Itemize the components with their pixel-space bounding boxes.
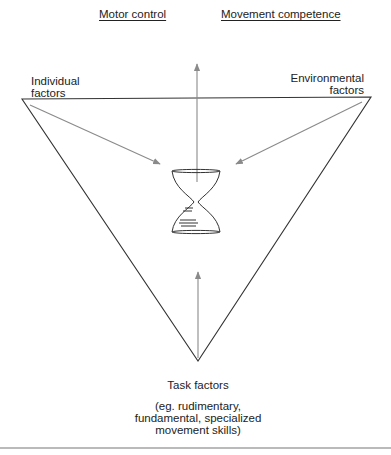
label-line: Environmental <box>290 72 364 84</box>
label-task-factors: Task factors <box>148 379 248 391</box>
hourglass-icon <box>172 169 220 233</box>
label-line: movement skills) <box>118 424 278 436</box>
label-line: Individual <box>31 75 80 87</box>
label-individual-factors: Individual factors <box>31 75 80 99</box>
label-line: fundamental, specialized <box>118 412 278 424</box>
label-movement-competence: Movement competence <box>221 8 341 20</box>
arrow-individual <box>30 105 160 164</box>
label-environmental-factors: Environmental factors <box>290 72 364 96</box>
label-motor-control: Motor control <box>99 8 166 20</box>
label-line: factors <box>290 84 364 96</box>
label-line: (eg. rudimentary, <box>118 400 278 412</box>
arrow-environmental <box>236 102 362 164</box>
label-task-examples: (eg. rudimentary, fundamental, specializ… <box>118 400 278 436</box>
label-line: factors <box>31 87 80 99</box>
